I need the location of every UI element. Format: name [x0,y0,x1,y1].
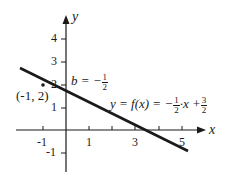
x-tick-label: 1 [86,135,92,150]
function-mid: ·x + [180,96,201,111]
y-axis-label: y [72,9,78,25]
y-axis-arrow-icon [63,15,70,24]
fraction-denominator: 2 [102,83,109,92]
y-ticks [61,39,66,153]
y-tick-label: 2 [51,77,57,92]
point-marker [41,83,45,87]
x-axis-arrow-icon [197,127,206,134]
y-tick-label: 1 [51,100,57,115]
x-axis-label: x [209,122,215,138]
intercept-fraction: 12 [102,73,109,92]
y-tick-label: -1 [46,145,56,160]
point-label: (-1, 2) [16,88,49,104]
intercept-prefix: b = − [71,73,102,88]
function-label: y = f(x) = −12·x +32 [110,96,207,115]
function-lhs: y = f(x) = − [110,96,173,111]
fraction-denominator: 2 [201,106,208,115]
x-tick-label: 3 [132,135,138,150]
constant-fraction: 32 [201,96,208,115]
x-tick-label: 5 [179,135,185,150]
y-tick-label: 3 [51,54,57,69]
y-tick-label: 4 [51,31,57,46]
intercept-label: b = −12 [71,73,108,92]
